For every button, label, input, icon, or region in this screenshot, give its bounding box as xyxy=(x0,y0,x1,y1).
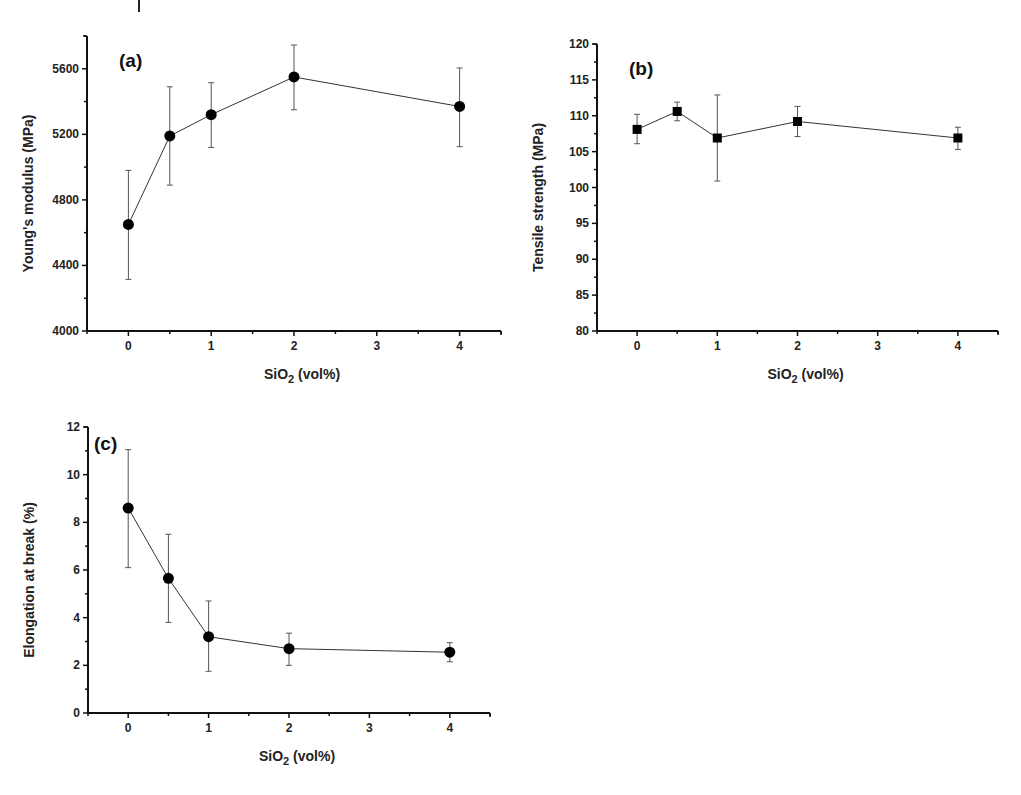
data-point xyxy=(953,133,962,142)
axes: 0123440004400480052005600SiO2 (vol%)Youn… xyxy=(20,36,501,385)
y-tick-label: 100 xyxy=(569,181,589,195)
y-tick-label: 4000 xyxy=(52,324,79,338)
x-tick-label: 4 xyxy=(446,721,453,735)
y-tick-label: 85 xyxy=(576,288,590,302)
y-tick-label: 0 xyxy=(73,706,80,720)
y-tick-label: 105 xyxy=(569,145,589,159)
x-tick-label: 2 xyxy=(291,339,298,353)
x-tick-label: 3 xyxy=(366,721,373,735)
y-tick-label: 80 xyxy=(576,324,590,338)
y-tick-label: 120 xyxy=(569,37,589,51)
y-tick-label: 6 xyxy=(73,563,80,577)
x-tick-label: 3 xyxy=(874,339,881,353)
data-point xyxy=(444,647,455,658)
axes: 01234024681012SiO2 (vol%)Elongation at b… xyxy=(21,420,490,767)
x-tick-label: 0 xyxy=(125,339,132,353)
axes: 0123480859095100105110115120SiO2 (vol%)T… xyxy=(530,37,998,385)
x-tick-label: 4 xyxy=(456,339,463,353)
panel-label: (c) xyxy=(94,433,117,454)
data-point xyxy=(713,133,722,142)
data-point xyxy=(289,71,300,82)
y-tick-label: 95 xyxy=(576,216,590,230)
data-series xyxy=(123,450,456,672)
y-tick-label: 5600 xyxy=(52,62,79,76)
y-tick-label: 8 xyxy=(73,515,80,529)
data-point xyxy=(793,117,802,126)
data-series xyxy=(123,45,465,279)
y-tick-label: 2 xyxy=(73,658,80,672)
y-tick-label: 10 xyxy=(67,468,81,482)
data-series xyxy=(633,95,963,181)
x-tick-label: 1 xyxy=(714,339,721,353)
y-tick-label: 90 xyxy=(576,252,590,266)
x-axis-title: SiO2 (vol%) xyxy=(264,366,340,385)
data-point xyxy=(203,631,214,642)
chart-youngs-modulus: 0123440004400480052005600SiO2 (vol%)Youn… xyxy=(20,36,501,385)
data-point xyxy=(633,125,642,134)
x-axis-title: SiO2 (vol%) xyxy=(259,748,335,767)
y-tick-label: 4400 xyxy=(52,258,79,272)
x-tick-label: 1 xyxy=(205,721,212,735)
chart-elongation-at-break: 01234024681012SiO2 (vol%)Elongation at b… xyxy=(21,420,490,767)
x-tick-label: 1 xyxy=(208,339,215,353)
y-tick-label: 5200 xyxy=(52,127,79,141)
y-tick-label: 4800 xyxy=(52,193,79,207)
y-axis-title: Young's modulus (MPa) xyxy=(20,115,36,273)
x-tick-label: 3 xyxy=(373,339,380,353)
x-tick-label: 0 xyxy=(634,339,641,353)
figure-canvas: 0123440004400480052005600SiO2 (vol%)Youn… xyxy=(0,0,1021,795)
data-point xyxy=(123,219,134,230)
data-point xyxy=(163,573,174,584)
x-tick-label: 0 xyxy=(125,721,132,735)
data-point xyxy=(164,130,175,141)
x-tick-label: 4 xyxy=(955,339,962,353)
y-tick-label: 12 xyxy=(67,420,81,434)
y-tick-label: 110 xyxy=(570,109,590,123)
x-tick-label: 2 xyxy=(286,721,293,735)
data-point xyxy=(454,101,465,112)
y-axis-title: Elongation at break (%) xyxy=(21,502,37,658)
series-line xyxy=(128,508,450,652)
data-point xyxy=(123,503,134,514)
y-tick-label: 115 xyxy=(570,73,590,87)
x-tick-label: 2 xyxy=(794,339,801,353)
data-point xyxy=(673,107,682,116)
y-tick-label: 4 xyxy=(73,611,80,625)
panel-label: (b) xyxy=(629,58,653,79)
data-point xyxy=(284,643,295,654)
data-point xyxy=(206,109,217,120)
chart-tensile-strength: 0123480859095100105110115120SiO2 (vol%)T… xyxy=(530,37,998,385)
x-axis-title: SiO2 (vol%) xyxy=(767,366,843,385)
panel-label: (a) xyxy=(119,50,142,71)
y-axis-title: Tensile strength (MPa) xyxy=(530,123,546,272)
